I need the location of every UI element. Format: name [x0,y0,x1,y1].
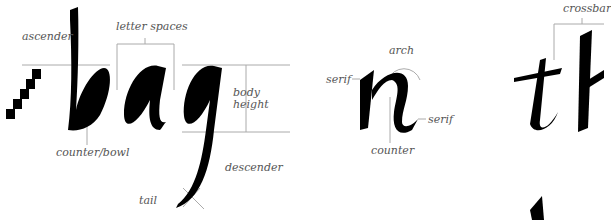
tail-label: tail [139,195,157,207]
descender-label: descender [225,162,283,174]
body-height-label-line2: height [233,99,269,111]
glyph-g [176,66,222,208]
serif-left-label: serif [326,74,351,86]
glyph-a [124,66,166,130]
glyph-b [68,7,110,130]
counter-bowl-label: counter/bowl [56,147,129,159]
nib-width-ladder [6,69,41,119]
glyph-t [514,58,562,130]
serif-right-label: serif [428,114,453,126]
ascender-label: ascender [22,31,73,43]
counter-label: counter [371,145,414,157]
glyph-fragment-bottom [530,196,544,220]
glyph-h [578,30,604,132]
crossbar-label: crossbar [563,3,611,15]
letter-spaces-label: letter spaces [116,21,188,33]
glyph-n [360,70,418,133]
crossbar-bracket [554,24,604,60]
arch-label: arch [389,45,414,57]
